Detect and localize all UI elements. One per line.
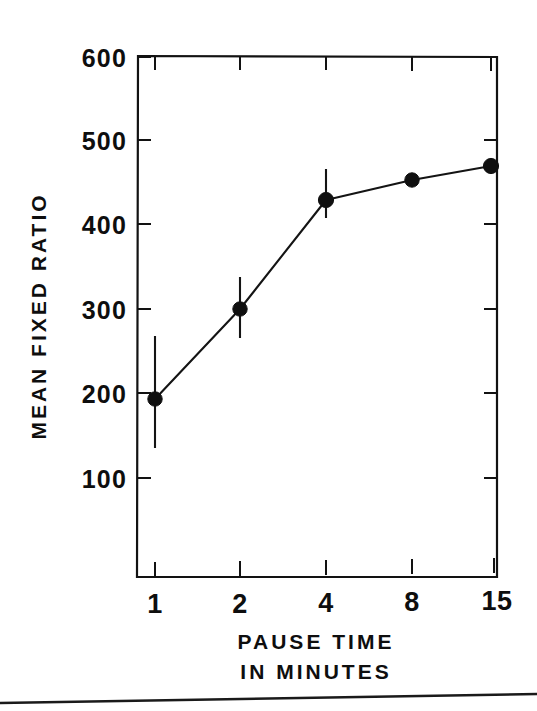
x-tick-labels: 1 2 4 8 15 [147,586,512,619]
plot-frame [137,56,497,577]
x-tick-label-1: 1 [147,589,163,619]
x-tick-label-8: 8 [404,587,420,617]
plot-frame-box [137,56,497,577]
line-chart: 600 500 400 300 200 100 1 2 4 8 15 [0,0,537,711]
y-tick-label-200: 200 [82,380,127,408]
y-tick-label-100: 100 [82,465,127,493]
bottom-separator-rule [0,694,537,703]
y-tick-label-600: 600 [82,44,127,72]
y-axis-ticks-right [484,140,497,478]
x-tick-label-4: 4 [318,588,334,618]
data-point-3 [318,192,333,207]
figure-container: 600 500 400 300 200 100 1 2 4 8 15 [0,0,537,711]
x-axis-ticks-top [155,56,491,71]
y-tick-label-300: 300 [82,296,127,324]
y-tick-label-400: 400 [82,211,127,239]
x-axis-title-line-2: IN MINUTES [240,660,391,683]
x-tick-label-2: 2 [232,589,248,619]
data-point-2 [233,302,247,316]
y-axis-ticks [138,57,151,478]
x-tick-label-15: 15 [481,586,512,616]
data-point-4 [405,173,419,187]
data-point-5 [483,158,498,173]
x-axis-title-line-1: PAUSE TIME [238,630,395,653]
y-tick-labels: 600 500 400 300 200 100 [82,44,127,493]
y-axis-title: MEAN FIXED RATIO [27,192,50,439]
data-point-1 [148,392,162,406]
x-axis-ticks [155,558,494,577]
data-markers [148,158,499,406]
y-tick-label-500: 500 [82,127,127,155]
